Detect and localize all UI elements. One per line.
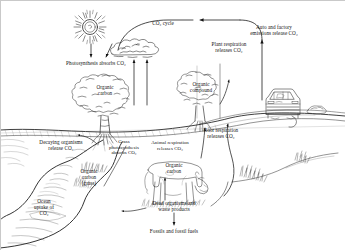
label-root-respiration: Root respiration releases CO₂: [188, 127, 254, 139]
label-dead-organisms: Dead organisms and waste products: [134, 200, 214, 212]
sunlight-arrow-right: [106, 44, 112, 57]
ground-line: [0, 113, 345, 132]
label-grass-organic-carbon: Organic carbon (grass): [70, 168, 108, 186]
sun-icon: [74, 10, 106, 44]
label-organic-compound: Organic compound: [180, 81, 222, 93]
label-ocean-uptake: Ocean uptake of CO₂: [22, 198, 66, 216]
label-tree-organic-carbon: Organic carbon: [85, 84, 125, 96]
label-fossils-fuels: Fossils and fossil fuels: [128, 228, 220, 234]
label-auto-factory-emissions: Auto and factory emissions release CO₂: [236, 24, 312, 36]
label-animal-respiration: Animal respiration releases CO₂: [136, 140, 204, 151]
label-cow-organic-carbon: Organic carbon: [155, 162, 193, 174]
label-plant-respiration: Plant respiration releases CO₂: [196, 41, 262, 53]
ocean-icon: [0, 140, 122, 248]
car-icon: [266, 89, 300, 119]
carbon-cycle-diagram: Photosynthesis absorbs CO₂ CO₂ cycle Org…: [0, 0, 345, 250]
rock-icon: [307, 106, 327, 114]
cloud-icon: [110, 39, 158, 58]
label-decaying-organisms: Decaying organisms release CO₂: [22, 139, 100, 151]
label-photosynthesis-absorbs: Photosynthesis absorbs CO₂: [48, 60, 144, 66]
label-co2-cycle: CO₂ cycle: [140, 20, 186, 26]
